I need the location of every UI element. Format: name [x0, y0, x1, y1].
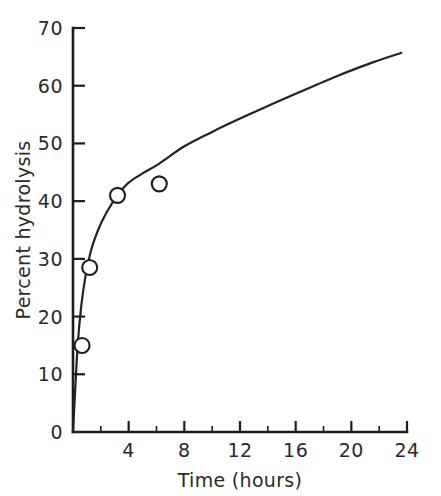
data-point-marker	[152, 176, 167, 191]
data-point-marker	[110, 188, 125, 203]
y-tick-label: 30	[38, 248, 63, 270]
y-tick-label: 60	[38, 75, 63, 97]
y-tick-label: 70	[38, 17, 63, 39]
y-tick-label: 50	[38, 132, 63, 154]
x-tick-label: 8	[178, 439, 191, 461]
x-tick-label: 24	[394, 439, 419, 461]
data-point-marker	[75, 338, 90, 353]
x-tick-label: 16	[283, 439, 308, 461]
y-tick-label: 10	[38, 363, 63, 385]
chart-container: 010203040506070 4812162024 Time (hours) …	[0, 0, 441, 496]
y-tick-label: 20	[38, 306, 63, 328]
hydrolysis-chart: 010203040506070 4812162024 Time (hours) …	[0, 0, 441, 496]
x-tick-label: 20	[339, 439, 364, 461]
x-axis-title: Time (hours)	[177, 469, 302, 491]
chart-background	[0, 0, 441, 496]
y-tick-label: 0	[50, 421, 63, 443]
y-tick-label: 40	[38, 190, 63, 212]
x-tick-label: 12	[227, 439, 252, 461]
x-tick-label: 4	[122, 439, 135, 461]
y-axis-title: Percent hydrolysis	[12, 141, 34, 320]
data-point-marker	[82, 260, 97, 275]
